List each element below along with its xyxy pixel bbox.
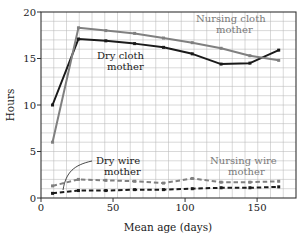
data-point: [133, 188, 136, 191]
data-point: [162, 46, 165, 49]
label-nursing-cloth-line1: Nursing cloth: [196, 13, 266, 24]
data-point: [77, 178, 80, 181]
data-point: [162, 182, 165, 185]
data-point: [220, 181, 223, 184]
data-point: [191, 187, 194, 190]
data-point: [248, 62, 251, 65]
data-point: [277, 180, 280, 183]
data-point: [248, 54, 251, 57]
y-tick-label-0: 0: [30, 193, 36, 204]
data-point: [133, 42, 136, 45]
data-point: [104, 39, 107, 42]
data-point: [77, 26, 80, 29]
x-axis-title: Mean age (days): [124, 221, 212, 233]
y-tick-label-5: 5: [30, 146, 36, 157]
x-tick-label-50: 50: [107, 202, 120, 213]
label-nursing-wire-line2: mother: [228, 166, 265, 177]
x-tick-label-150: 150: [247, 202, 266, 213]
chart-container: 20 15 10 5 0 0 50 100 150 Hours Mean age…: [0, 0, 305, 242]
data-point: [191, 41, 194, 44]
data-point: [51, 192, 54, 195]
label-nursing-cloth-line2: mother: [216, 24, 253, 35]
data-point: [104, 29, 107, 32]
label-dry-wire-line1: Dry wire: [96, 155, 140, 166]
data-point: [220, 47, 223, 50]
data-point: [51, 184, 54, 187]
data-point: [162, 188, 165, 191]
y-axis-title: Hours: [4, 89, 16, 122]
data-point: [77, 37, 80, 40]
data-point: [133, 32, 136, 35]
data-point: [191, 177, 194, 180]
data-point: [133, 180, 136, 183]
data-point: [220, 63, 223, 66]
y-tick-label-20: 20: [23, 7, 36, 18]
data-point: [77, 189, 80, 192]
data-point: [104, 179, 107, 182]
data-point: [51, 104, 54, 107]
label-dry-wire-line2: mother: [104, 166, 141, 177]
x-tick-label-100: 100: [175, 202, 194, 213]
data-point: [162, 37, 165, 40]
label-dry-cloth-line1: Dry cloth: [97, 50, 144, 61]
data-point: [248, 181, 251, 184]
data-point: [277, 185, 280, 188]
data-point: [248, 186, 251, 189]
data-point: [191, 52, 194, 55]
data-point: [51, 141, 54, 144]
data-point: [277, 49, 280, 52]
data-point: [220, 186, 223, 189]
hours-vs-mean-age-line-chart: 20 15 10 5 0 0 50 100 150 Hours Mean age…: [0, 0, 305, 242]
data-point: [104, 189, 107, 192]
x-tick-label-0: 0: [38, 202, 44, 213]
y-tick-label-10: 10: [23, 100, 36, 111]
label-nursing-wire-line1: Nursing wire: [210, 155, 277, 166]
y-tick-label-15: 15: [23, 53, 36, 64]
data-point: [277, 59, 280, 62]
label-dry-cloth-line2: mother: [107, 61, 144, 72]
